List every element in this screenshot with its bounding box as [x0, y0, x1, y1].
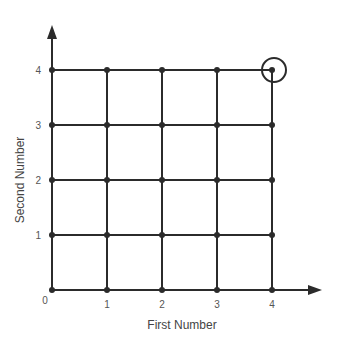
x-axis-arrow-icon [308, 285, 322, 295]
tick-y2: 2 [35, 175, 41, 186]
y-axis-label: Second Number [13, 137, 27, 224]
tick-x3: 3 [214, 299, 220, 310]
tick-y3: 3 [35, 120, 41, 131]
tick-y1: 1 [35, 230, 41, 241]
coordinate-grid-diagram: 0 1 2 3 4 1 2 3 4 First Number Second Nu… [0, 0, 338, 342]
tick-x4: 4 [269, 299, 275, 310]
tick-origin: 0 [42, 295, 48, 306]
y-axis-arrow-icon [47, 25, 57, 39]
tick-x1: 1 [104, 299, 110, 310]
tick-y4: 4 [35, 65, 41, 76]
grid-svg: 0 1 2 3 4 1 2 3 4 First Number Second Nu… [0, 0, 338, 342]
x-axis-label: First Number [147, 318, 216, 332]
tick-x2: 2 [159, 299, 165, 310]
